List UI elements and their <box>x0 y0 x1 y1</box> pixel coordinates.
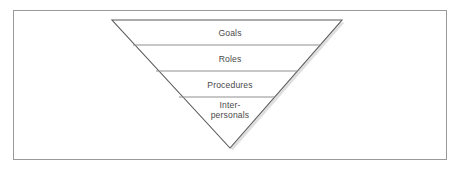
inverted-pyramid-diagram <box>0 0 461 171</box>
figure-root: Goals Roles Procedures Inter- personals <box>0 0 461 171</box>
pyramid-body <box>112 20 342 148</box>
